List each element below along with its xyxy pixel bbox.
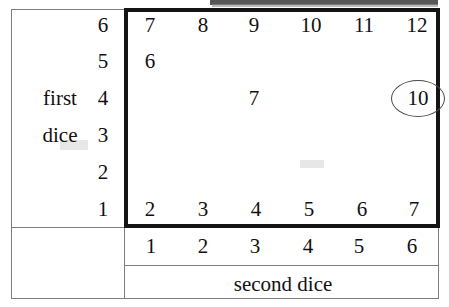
second-dice-value-6: 6 (407, 236, 418, 257)
first-dice-value-6: 6 (98, 15, 109, 36)
first-dice-value-1: 1 (98, 199, 109, 220)
sum-cell-r1-c5: 6 (357, 199, 368, 220)
sum-cell-r1-c6: 7 (409, 199, 420, 220)
second-dice-value-1: 1 (146, 236, 157, 257)
first-dice-value-5: 5 (98, 51, 109, 72)
second-dice-value-4: 4 (303, 236, 314, 257)
first-dice-value-2: 2 (98, 162, 109, 183)
first-dice-value-4: 4 (98, 88, 109, 109)
first-dice-value-3: 3 (98, 125, 109, 146)
sum-cell-r1-c3: 4 (251, 199, 262, 220)
sum-cell-r1-c4: 5 (304, 199, 315, 220)
sum-grid-thick-border (124, 8, 440, 228)
first-dice-axis-label-line-1: first (43, 88, 77, 109)
sum-cell-r4-c3: 7 (249, 88, 260, 109)
grid-bottom-divider-left (11, 227, 125, 228)
second-dice-value-2: 2 (198, 236, 209, 257)
dice-sum-table-figure: first dice 6 5 4 3 2 1 7 8 9 10 11 12 6 … (0, 0, 449, 307)
scan-artifact-band-secondary (212, 4, 438, 7)
second-dice-axis-label: second dice (234, 274, 333, 295)
sum-cell-r6-c6: 12 (407, 15, 428, 36)
sum-cell-r6-c1: 7 (145, 15, 156, 36)
first-dice-axis-label-line-2: dice (43, 125, 78, 146)
sum-cell-r6-c5: 11 (354, 15, 374, 36)
second-dice-value-5: 5 (354, 236, 365, 257)
sum-cell-r6-c3: 9 (249, 15, 260, 36)
second-dice-value-3: 3 (250, 236, 261, 257)
sum-cell-r5-c1: 6 (145, 51, 156, 72)
second-dice-row-divider (125, 265, 439, 266)
sum-cell-r6-c4: 10 (301, 15, 322, 36)
sum-cell-r1-c2: 3 (198, 199, 209, 220)
sum-cell-r4-c6-circled: 10 (408, 88, 429, 109)
sum-cell-r1-c1: 2 (145, 199, 156, 220)
sum-cell-r6-c2: 8 (198, 15, 209, 36)
